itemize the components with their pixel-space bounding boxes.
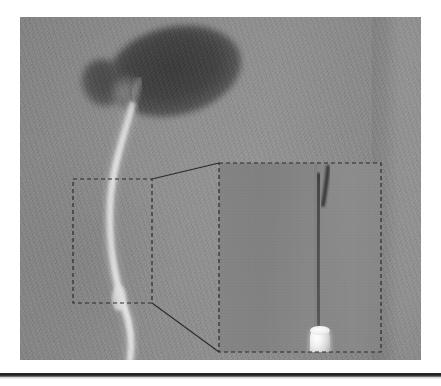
radiograph-image: [20, 17, 421, 360]
figure-root: [0, 0, 441, 386]
roi-dashed-box: [73, 179, 152, 303]
leader-line-bottom: [152, 303, 219, 352]
inset-dashed-frame: [219, 163, 381, 352]
annotation-overlay: [20, 17, 421, 360]
footer-rule-shadow: [0, 377, 441, 379]
figure-caption: [0, 0, 1, 1]
leader-line-top: [152, 163, 219, 179]
